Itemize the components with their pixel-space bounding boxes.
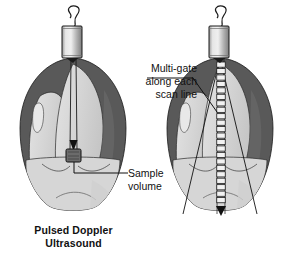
sample-gate — [217, 198, 226, 203]
caption-line-1: Pulsed Doppler — [0, 224, 147, 237]
sample-gate — [217, 62, 226, 67]
gate-column-arrowhead — [216, 206, 226, 216]
annotation-multi-gate-line-2: along each — [129, 75, 197, 88]
sample-gate — [217, 127, 226, 132]
ultrasound-transducer — [62, 6, 82, 63]
transducer-body — [62, 26, 82, 58]
annotation-sample-volume: Sample volume — [128, 167, 194, 193]
pulsed-doppler-illustration — [0, 0, 147, 224]
annotation-sample-volume-line-1: Sample — [128, 167, 194, 180]
sample-gate — [217, 75, 226, 80]
sample-gate — [217, 152, 226, 157]
caption-pulsed-doppler: Pulsed Doppler Ultrasound — [0, 224, 147, 249]
ultrasound-transducer — [209, 6, 229, 63]
sample-gate — [217, 120, 226, 125]
transducer-cable — [68, 6, 79, 28]
sample-gate — [217, 185, 226, 190]
ultrasound-comparison-figure: Pulsed Doppler Ultrasound — [0, 0, 294, 257]
heart-cross-section — [20, 58, 126, 214]
sample-gate — [217, 191, 226, 196]
sample-gate — [217, 139, 226, 144]
transducer-body — [209, 26, 229, 58]
panel-pulsed-doppler: Pulsed Doppler Ultrasound — [0, 0, 147, 257]
sample-gate — [217, 68, 226, 73]
sample-gate — [217, 133, 226, 138]
caption-line-2: Ultrasound — [0, 237, 147, 250]
sample-gate — [217, 146, 226, 151]
panel-color-flow-imaging: Color Flow Imaging — [147, 0, 294, 257]
sample-gate — [217, 159, 226, 164]
sample-gate — [217, 178, 226, 183]
annotation-sample-volume-line-2: volume — [128, 180, 194, 193]
ventricular-floor — [26, 157, 120, 214]
sample-gate — [217, 172, 226, 177]
annotation-multi-gate: Multi-gate along each scan line — [129, 62, 197, 101]
sample-gate — [217, 114, 226, 119]
sample-gate — [217, 165, 226, 170]
sample-gate — [217, 94, 226, 99]
sample-gate — [217, 81, 226, 86]
sample-volume-gate — [66, 149, 81, 162]
sample-gate — [217, 107, 226, 112]
sample-gate — [217, 88, 226, 93]
sample-gate — [217, 101, 226, 106]
annotation-multi-gate-line-1: Multi-gate — [129, 62, 197, 75]
transducer-cable — [215, 6, 226, 28]
annotation-multi-gate-line-3: scan line — [129, 88, 197, 101]
